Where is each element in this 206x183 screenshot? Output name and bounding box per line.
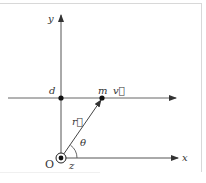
angle-label: θ xyxy=(80,137,86,148)
diagram-canvas: y d m v⃗ r⃗ θ x O z xyxy=(0,0,206,183)
z-axis-label: z xyxy=(68,160,75,171)
point-m xyxy=(99,95,104,100)
z-out-of-page-icon xyxy=(56,153,66,163)
point-m-label: m xyxy=(98,85,107,96)
position-vector-label: r⃗ xyxy=(72,116,83,127)
y-axis-label: y xyxy=(47,13,54,24)
origin-label: O xyxy=(45,158,54,171)
angle-arc xyxy=(71,145,78,158)
x-axis-label: x xyxy=(182,152,188,163)
point-d-label: d xyxy=(49,85,55,96)
position-vector xyxy=(61,100,101,158)
point-d xyxy=(58,95,63,100)
velocity-label: v⃗ xyxy=(113,85,125,96)
